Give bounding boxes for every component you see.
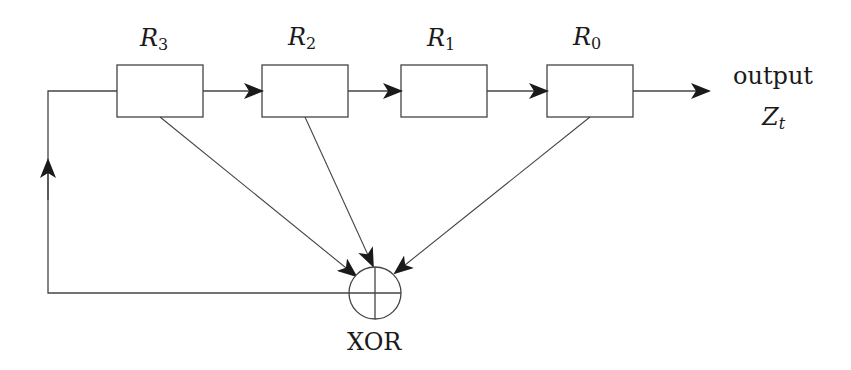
tap-r3-to-xor <box>160 117 356 276</box>
label-r3: R3 <box>140 24 168 54</box>
output-symbol: Zt <box>762 103 785 133</box>
register-r3-box <box>117 65 203 117</box>
tap-r2-to-xor <box>305 117 373 266</box>
tap-r0-to-xor <box>395 117 590 273</box>
xor-label: XOR <box>347 328 401 356</box>
label-r1: R1 <box>427 24 455 54</box>
output-label: output <box>733 62 813 90</box>
register-r2-box <box>262 65 348 117</box>
register-r1-box <box>401 65 487 117</box>
label-r0: R0 <box>573 23 601 53</box>
xor-gate <box>349 267 401 319</box>
label-r2: R2 <box>288 23 316 53</box>
feedback-line <box>48 91 349 293</box>
lfsr-diagram <box>0 0 851 370</box>
register-r0-box <box>547 65 633 117</box>
